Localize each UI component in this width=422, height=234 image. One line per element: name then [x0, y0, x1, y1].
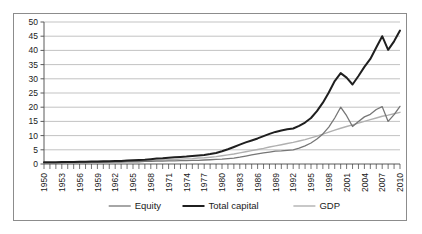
x-tick-label: 2004 — [360, 173, 370, 192]
chart-frame: 05101520253035404550 1950195319561959196… — [13, 13, 407, 221]
y-tick-label: 40 — [29, 45, 39, 55]
x-tick-label: 1992 — [288, 173, 298, 192]
x-tick-label: 1971 — [164, 173, 174, 192]
legend-item-equity[interactable]: Equity — [109, 200, 162, 211]
x-tick-label: 1950 — [39, 173, 49, 192]
y-tick-label: 5 — [33, 145, 38, 155]
x-tick-label: 1974 — [182, 173, 192, 192]
y-tick-label: 15 — [29, 116, 39, 126]
x-tick-label: 1959 — [93, 173, 103, 192]
y-tick-label: 45 — [29, 31, 39, 41]
y-tick-label: 0 — [33, 159, 38, 169]
gridlines — [44, 22, 400, 150]
x-tick-label: 2010 — [395, 173, 405, 192]
legend-label: Total capital — [209, 200, 259, 211]
x-tick-label: 1962 — [110, 173, 120, 192]
legend-item-total-capital[interactable]: Total capital — [183, 200, 259, 211]
x-tick-label: 1968 — [146, 173, 156, 192]
chart-legend: EquityTotal capitalGDP — [109, 200, 340, 211]
x-tick-label: 1965 — [128, 173, 138, 192]
x-tick-label: 1953 — [57, 173, 67, 192]
y-tick-label: 35 — [29, 60, 39, 70]
y-tick-labels: 05101520253035404550 — [29, 17, 39, 169]
x-tick-label: 1998 — [324, 173, 334, 192]
y-tick-label: 20 — [29, 102, 39, 112]
legend-item-gdp[interactable]: GDP — [293, 200, 340, 211]
series-line-gdp — [44, 112, 400, 162]
x-tick-label: 2007 — [377, 173, 387, 192]
x-tick-label: 1956 — [75, 173, 85, 192]
x-tick-labels: 1950195319561959196219651968197119741977… — [39, 173, 405, 192]
line-chart: 05101520253035404550 1950195319561959196… — [14, 14, 406, 220]
x-tick-label: 2001 — [342, 173, 352, 192]
x-tick-label: 1995 — [306, 173, 316, 192]
x-tick-label: 1983 — [235, 173, 245, 192]
series-line-equity — [44, 106, 400, 163]
legend-label: Equity — [135, 200, 162, 211]
y-tick-label: 50 — [29, 17, 39, 27]
y-tick-label: 30 — [29, 74, 39, 84]
x-tick-label: 1980 — [217, 173, 227, 192]
y-axis — [41, 22, 45, 164]
y-tick-label: 10 — [29, 131, 39, 141]
x-tick-label: 1986 — [253, 173, 263, 192]
x-tick-label: 1977 — [199, 173, 209, 192]
y-tick-label: 25 — [29, 88, 39, 98]
x-tick-label: 1989 — [271, 173, 281, 192]
legend-label: GDP — [319, 200, 340, 211]
x-axis — [44, 164, 400, 169]
